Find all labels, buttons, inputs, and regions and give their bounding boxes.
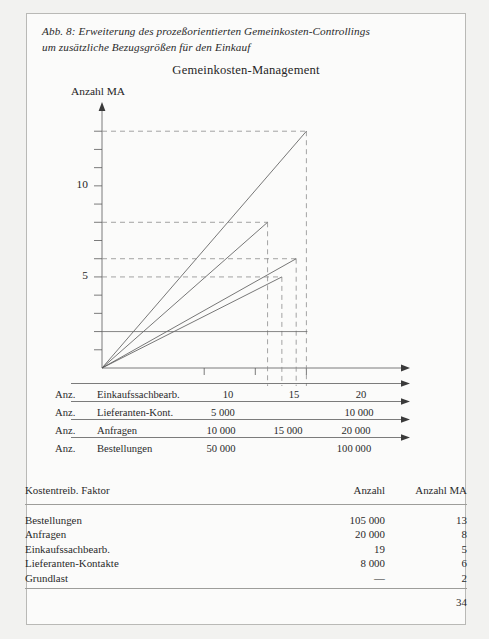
table-cell-ma: 5 (385, 543, 467, 555)
caption-line-1: Abb. 8: Erweiterung des prozeßorientiert… (42, 24, 432, 40)
x-axis-row-1: Anz. Lieferanten-Kont. 5 000 10 000 (26, 407, 466, 425)
table-total-ma: 34 (385, 596, 467, 608)
table-cell-factor: Lieferanten-Kontakte (25, 557, 119, 569)
y-tick-label-5: 5 (60, 269, 88, 281)
page-root: Abb. 8: Erweiterung des prozeßorientiert… (0, 0, 489, 639)
table-cell-ma: 2 (385, 572, 467, 584)
x-axis-row-1-tick-2: 10 000 (329, 407, 389, 418)
table-cell-ma: 8 (385, 528, 467, 540)
y-tick-label-10: 10 (60, 178, 88, 190)
x-axis-row-0: Anz. Einkaufssachbearb. 10 15 20 (26, 389, 466, 407)
x-axis-row-0-name: Einkaufssachbearb. (97, 389, 180, 400)
caption-line-2: um zusätzliche Bezugsgrößen für den Eink… (42, 40, 432, 56)
x-axis-row-0-tick-2: 20 (331, 389, 391, 400)
y-axis-label: Anzahl MA (71, 85, 125, 97)
x-axis-row-0-tick-1: 15 (264, 389, 324, 400)
table-cell-ma: 13 (385, 514, 467, 526)
table-cell-factor: Einkaufssachbearb. (25, 543, 110, 555)
chart-title: Gemeinkosten-Management (26, 63, 466, 78)
table-body: Bestellungen105 00013Anfragen20 0008Eink… (25, 514, 467, 586)
table-header-factor: Kostentreib. Faktor (25, 484, 110, 496)
x-axis-row-3-tick-2: 100 000 (324, 443, 384, 454)
x-axis-row-2-prefix: Anz. (55, 425, 75, 436)
table-cell-factor: Bestellungen (25, 514, 82, 526)
figure-caption: Abb. 8: Erweiterung des prozeßorientiert… (42, 24, 432, 55)
table-cell-anzahl: — (225, 572, 385, 584)
x-axis-row-3: Anz. Bestellungen 50 000 100 000 (26, 443, 466, 461)
x-axis-row-3-name: Bestellungen (97, 443, 152, 454)
x-axis-row-2-tick-1: 15 000 (258, 425, 318, 436)
table-row: Grundlast—2 (25, 572, 467, 586)
table-header-ma: Anzahl MA (385, 484, 467, 496)
table-header-rule (25, 504, 467, 505)
table-cell-anzahl: 19 (225, 543, 385, 555)
table-cell-anzahl: 20 000 (225, 528, 385, 540)
table-row: Lieferanten-Kontakte8 0006 (25, 557, 467, 571)
x-axis-row-2-tick-2: 20 000 (326, 425, 386, 436)
table-cell-anzahl: 8 000 (225, 557, 385, 569)
x-axis-row-2-name: Anfragen (97, 425, 137, 436)
table-header-row: Kostentreib. Faktor Anzahl Anzahl MA (25, 484, 467, 498)
table-header-anzahl: Anzahl (225, 484, 385, 496)
table-row: Einkaufssachbearb.195 (25, 543, 467, 557)
x-axis-row-2-tick-0: 10 000 (191, 425, 251, 436)
table-row: Bestellungen105 00013 (25, 514, 467, 528)
x-axis-row-1-prefix: Anz. (55, 407, 75, 418)
table-cell-ma: 6 (385, 557, 467, 569)
summary-table: Kostentreib. Faktor Anzahl Anzahl MA Bes… (25, 484, 467, 498)
x-axis-row-1-tick-0: 5 000 (193, 407, 253, 418)
table-footer-rule (25, 588, 467, 589)
x-axis-row-3-tick-0: 50 000 (191, 443, 251, 454)
table-cell-factor: Grundlast (25, 572, 68, 584)
table-cell-factor: Anfragen (25, 528, 66, 540)
x-axis-row-0-tick-0: 10 (198, 389, 258, 400)
x-axis-row-1-name: Lieferanten-Kont. (97, 407, 173, 418)
table-row: Anfragen20 0008 (25, 528, 467, 542)
x-axis-row-3-prefix: Anz. (55, 443, 75, 454)
x-axis-row-0-prefix: Anz. (55, 389, 75, 400)
x-axis-row-2: Anz. Anfragen 10 000 15 000 20 000 (26, 425, 466, 443)
table-cell-anzahl: 105 000 (225, 514, 385, 526)
